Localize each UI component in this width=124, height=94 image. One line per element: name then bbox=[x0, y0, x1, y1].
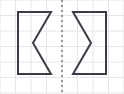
figure-svg bbox=[0, 0, 124, 94]
diagram-canvas bbox=[0, 0, 124, 94]
